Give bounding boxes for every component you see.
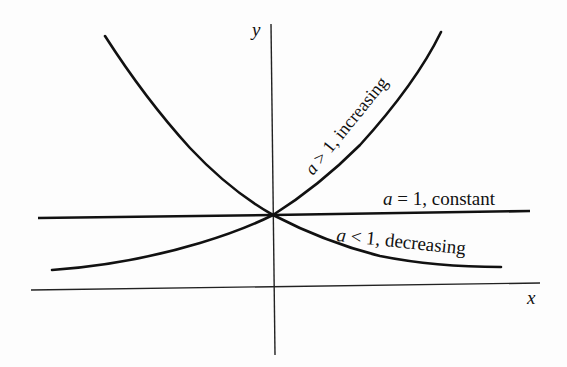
x-axis <box>31 283 540 290</box>
decreasing-label: a < 1, decreasing <box>336 224 468 259</box>
constant-line <box>38 211 530 218</box>
constant-label-op: = <box>397 188 408 209</box>
increasing-label-desc: , increasing <box>324 73 392 150</box>
constant-label-var: a <box>383 188 393 209</box>
y-axis <box>271 24 275 355</box>
decreasing-curve <box>105 36 501 267</box>
y-axis-label: y <box>250 19 261 40</box>
constant-label: a = 1, constant <box>383 188 496 209</box>
decreasing-label-desc: , decreasing <box>375 228 468 258</box>
decreasing-label-var: a <box>336 224 348 246</box>
decreasing-label-op: < <box>350 226 363 248</box>
diagram-svg: y x a > 1, increasing a = 1, constant a … <box>0 0 567 367</box>
exponential-function-diagram: y x a > 1, increasing a = 1, constant a … <box>0 0 567 367</box>
constant-label-value: 1 <box>413 188 423 209</box>
x-axis-label: x <box>526 287 536 308</box>
constant-label-desc: , constant <box>422 188 496 209</box>
